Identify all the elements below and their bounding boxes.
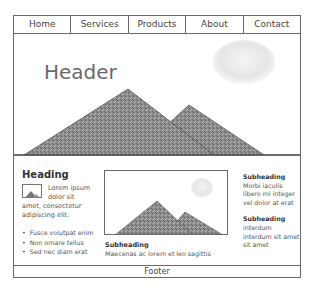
sidebar-subheading: Subheading xyxy=(243,173,301,182)
nav-item-services[interactable]: Services xyxy=(71,16,128,33)
hero-title: Header xyxy=(44,60,117,84)
mountains-with-sun-image xyxy=(14,34,300,156)
sidebar-subheading: Subheading xyxy=(243,215,301,224)
content-text: Maecenas ac lorem et leo sagittis xyxy=(105,250,211,257)
left-column: Heading Lorem ipsum dolor sit amet, cons… xyxy=(22,169,107,257)
wireframe-frame: Home Services Products About Contact xyxy=(13,15,301,278)
sun-icon xyxy=(213,40,275,84)
thumbnail-row: Lorem ipsum dolor sit xyxy=(22,184,107,206)
nav-item-about[interactable]: About xyxy=(186,16,243,33)
section-heading: Heading xyxy=(22,169,107,180)
list-item: Non ornare tellus xyxy=(22,238,107,248)
top-navigation: Home Services Products About Contact xyxy=(14,16,300,34)
list-item: Fusce volutpat enim xyxy=(22,228,107,238)
content-subheading: Subheading xyxy=(105,241,149,249)
nav-item-contact[interactable]: Contact xyxy=(244,16,300,33)
list-item: Sed nec diam erat xyxy=(22,247,107,257)
nav-item-home[interactable]: Home xyxy=(14,16,71,33)
mountains-with-sun-image xyxy=(105,171,228,235)
nav-item-products[interactable]: Products xyxy=(129,16,186,33)
right-column: Subheading Morbi iaculis libero mi integ… xyxy=(243,173,301,250)
mountain-image-icon xyxy=(22,184,42,198)
hero-header: Header xyxy=(14,34,300,156)
footer: Footer xyxy=(14,265,300,277)
bullet-list: Fusce volutpat enim Non ornare tellus Se… xyxy=(22,228,107,257)
sidebar-text: interdum interdum sit amet sit amet xyxy=(243,224,301,250)
thumbnail-caption: Lorem ipsum dolor sit xyxy=(48,184,98,202)
content-image xyxy=(104,170,228,235)
sidebar-text: Morbi iaculis libero mi integer vel dolo… xyxy=(243,182,301,208)
